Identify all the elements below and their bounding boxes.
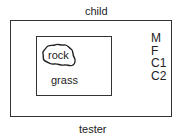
legend-item-c2: C2 [151, 70, 166, 83]
legend-item-m: M [151, 32, 166, 45]
rock-label: rock [48, 49, 69, 61]
top-label-child: child [85, 5, 108, 17]
bottom-label-tester: tester [79, 123, 107, 135]
grass-label: grass [51, 74, 78, 86]
participant-legend: M F C1 C2 [151, 32, 166, 82]
legend-item-c1: C1 [151, 57, 166, 70]
